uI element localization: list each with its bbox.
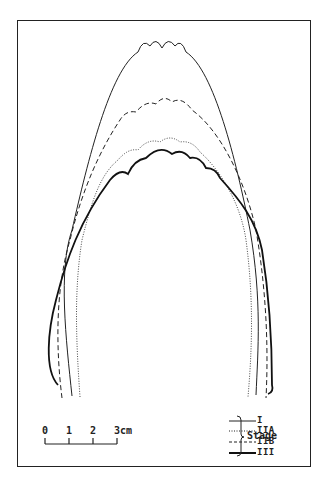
scale-tick-1: 1 <box>66 425 72 436</box>
arch-outline-drawing <box>0 0 325 486</box>
scale-tick-0: 0 <box>42 425 48 436</box>
scale-tick-3: 3cm <box>114 425 132 436</box>
scale-bar <box>45 438 117 444</box>
legend-bracket <box>237 416 244 456</box>
legend-label-III: III <box>257 447 275 457</box>
curve-stage-I <box>64 41 258 396</box>
curve-stage-IIA <box>77 138 252 397</box>
legend-group-label: Stage <box>247 430 277 441</box>
legend-label-I: I <box>257 415 263 425</box>
curve-stage-IIB <box>58 98 267 398</box>
scale-tick-2: 2 <box>90 425 96 436</box>
